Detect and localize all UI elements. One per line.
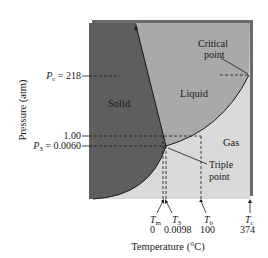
critical-point-label-1: Critical [198, 38, 228, 49]
triple-point-label-2: point [209, 171, 230, 182]
y-tick-pc: Pc = 218 [45, 70, 81, 83]
gas-label: Gas [223, 137, 239, 148]
x-tick-tm-value: 0 [150, 224, 155, 235]
tb-arrowhead-icon [199, 199, 203, 202]
x-tick-tc-value: 374 [240, 224, 255, 235]
y-tick-p3: P3 = 0.0060 [32, 140, 81, 153]
tc-arrowhead-icon [248, 199, 252, 203]
critical-point-label-2: point [204, 49, 225, 60]
phase-diagram: Solid Liquid Gas Critical point Triple p… [0, 0, 268, 258]
t3-arrow [166, 201, 172, 213]
tm-arrow [157, 201, 163, 213]
x-tick-t3-value: 0.0098 [164, 224, 192, 235]
triple-point-label-1: Triple [209, 159, 234, 170]
x-tick-tb-value: 100 [200, 224, 215, 235]
liquid-label: Liquid [180, 88, 209, 99]
solid-label: Solid [108, 98, 131, 109]
y-axis-title: Pressure (atm) [17, 79, 29, 140]
x-axis-title: Temperature (°C) [131, 241, 205, 253]
tb-arrow [201, 201, 206, 213]
